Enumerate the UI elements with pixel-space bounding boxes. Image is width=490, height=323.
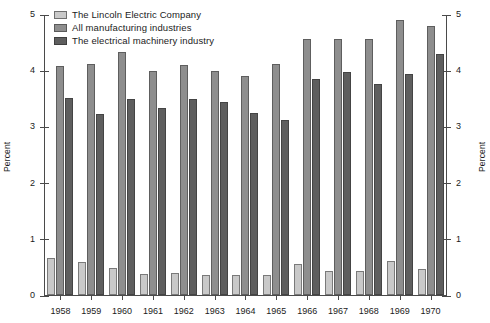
bar[interactable]: [303, 39, 311, 295]
y-tick-mark-right: [446, 239, 451, 240]
bar[interactable]: [334, 39, 342, 295]
bar-group: 1970: [415, 15, 446, 295]
x-tick-label: 1960: [112, 306, 132, 316]
y-tick-label-right: 3: [456, 121, 470, 131]
y-tick-label-right: 0: [456, 290, 470, 300]
y-axis-title-left: Percent: [2, 122, 12, 192]
x-tick-mark: [369, 295, 370, 300]
y-tick-label-right: 2: [456, 178, 470, 188]
y-tick-label-left: 3: [21, 121, 35, 131]
y-tick-label-left: 4: [21, 65, 35, 75]
bar-group-bars: [199, 15, 230, 295]
legend-swatch: [54, 11, 67, 19]
bar-group-bars: [261, 15, 292, 295]
bar-chart: Percent Percent 001122334455 19581959196…: [0, 0, 490, 323]
x-tick-mark: [431, 295, 432, 300]
bar-group: 1960: [107, 15, 138, 295]
y-tick-label-left: 2: [21, 178, 35, 188]
bar[interactable]: [202, 275, 210, 295]
bar[interactable]: [109, 268, 117, 295]
bar[interactable]: [312, 79, 320, 295]
bar[interactable]: [232, 275, 240, 295]
bar[interactable]: [436, 54, 444, 295]
bar-group: 1963: [199, 15, 230, 295]
x-tick-mark: [215, 295, 216, 300]
bar-group: 1967: [323, 15, 354, 295]
legend-item[interactable]: The Lincoln Electric Company: [54, 9, 214, 20]
bar[interactable]: [272, 64, 280, 295]
bar[interactable]: [96, 114, 104, 295]
bar[interactable]: [171, 273, 179, 295]
x-tick-label: 1967: [328, 306, 348, 316]
bar[interactable]: [140, 274, 148, 295]
legend-label: The Lincoln Electric Company: [72, 9, 201, 20]
bar[interactable]: [118, 52, 126, 295]
bar-group-bars: [323, 15, 354, 295]
bar[interactable]: [396, 20, 404, 295]
bar[interactable]: [250, 113, 258, 295]
x-tick-label: 1970: [421, 306, 441, 316]
y-tick-label-left: 5: [21, 9, 35, 19]
x-tick-label: 1962: [174, 306, 194, 316]
bar-group: 1966: [292, 15, 323, 295]
y-tick-label-left: 1: [21, 234, 35, 244]
bar-group: 1961: [138, 15, 169, 295]
bar-group-bars: [138, 15, 169, 295]
y-tick-label-right: 5: [456, 9, 470, 19]
y-axis-title-right: Percent: [477, 122, 487, 192]
bar[interactable]: [427, 26, 435, 295]
y-tick-mark-right: [446, 296, 451, 297]
bar[interactable]: [343, 72, 351, 295]
bar[interactable]: [405, 74, 413, 295]
bar[interactable]: [87, 64, 95, 295]
plot-area: 001122334455 195819591960196119621963196…: [44, 15, 447, 296]
legend-item[interactable]: The electrical machinery industry: [54, 35, 214, 46]
bar[interactable]: [56, 66, 64, 295]
bar-group: 1959: [76, 15, 107, 295]
bar[interactable]: [356, 271, 364, 295]
bar-group-bars: [292, 15, 323, 295]
chart-legend: The Lincoln Electric CompanyAll manufact…: [54, 9, 214, 46]
bar[interactable]: [387, 261, 395, 295]
bar[interactable]: [374, 84, 382, 295]
x-tick-label: 1966: [297, 306, 317, 316]
bar[interactable]: [325, 271, 333, 295]
bar[interactable]: [263, 275, 271, 295]
bar[interactable]: [281, 120, 289, 295]
legend-swatch: [54, 24, 67, 32]
bar[interactable]: [65, 98, 73, 295]
bar-group-bars: [45, 15, 76, 295]
bar[interactable]: [211, 71, 219, 295]
legend-item[interactable]: All manufacturing industries: [54, 22, 214, 33]
bar[interactable]: [418, 269, 426, 295]
bar[interactable]: [180, 65, 188, 295]
bar-group-bars: [230, 15, 261, 295]
bar[interactable]: [127, 99, 135, 295]
y-tick-mark-right-inner: [442, 296, 446, 297]
bar-group: 1964: [230, 15, 261, 295]
bar-group: 1958: [45, 15, 76, 295]
bar[interactable]: [220, 102, 228, 295]
bar[interactable]: [189, 99, 197, 295]
y-tick-mark-right: [446, 71, 451, 72]
bar-group-bars: [353, 15, 384, 295]
bar[interactable]: [78, 262, 86, 295]
y-tick-label-right: 1: [456, 234, 470, 244]
bar[interactable]: [47, 258, 55, 295]
bar[interactable]: [241, 76, 249, 295]
x-tick-label: 1963: [205, 306, 225, 316]
x-tick-label: 1964: [235, 306, 255, 316]
x-tick-mark: [400, 295, 401, 300]
x-tick-mark: [307, 295, 308, 300]
y-tick-label-left: 0: [21, 290, 35, 300]
legend-label: The electrical machinery industry: [72, 35, 214, 46]
x-tick-mark: [338, 295, 339, 300]
bar-group-bars: [76, 15, 107, 295]
x-tick-mark: [245, 295, 246, 300]
bar[interactable]: [149, 71, 157, 295]
bar[interactable]: [365, 39, 373, 295]
bar-group-bars: [384, 15, 415, 295]
bar[interactable]: [158, 108, 166, 295]
bar[interactable]: [294, 264, 302, 295]
x-tick-mark: [184, 295, 185, 300]
